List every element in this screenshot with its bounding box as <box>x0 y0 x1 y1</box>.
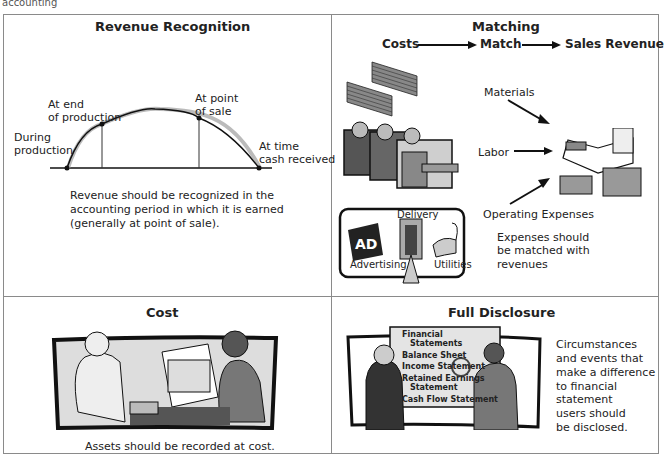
ad-sign-text: AD <box>355 236 377 252</box>
disclosure-description-line-5: statement <box>556 393 613 407</box>
board-item-retained-earnings: Retained Earnings <box>402 374 485 383</box>
vertical-divider <box>331 14 332 454</box>
disclosure-description-line-7: be disclosed. <box>556 421 628 435</box>
label-end-production-1: At end <box>48 98 84 112</box>
matching-description-line-2: be matched with <box>497 244 590 258</box>
label-cash-received-1: At time <box>259 140 299 154</box>
revenue-description-line-2: accounting period in which it is earned <box>70 203 284 217</box>
expense-advertising: Advertising <box>350 258 407 272</box>
panel-title: Full Disclosure <box>448 305 555 320</box>
label-during-production-2: production <box>14 144 73 158</box>
matching-description-line-3: revenues <box>497 258 548 272</box>
horizontal-divider <box>3 296 659 297</box>
expense-utilities: Utilities <box>434 258 472 272</box>
label-during-production-1: During <box>14 131 51 145</box>
disclosure-description-line-3: make a difference <box>556 366 655 380</box>
label-cash-received-2: cash received <box>259 153 335 167</box>
board-item-balance-sheet: Balance Sheet <box>402 351 466 360</box>
disclosure-description-line-1: Circumstances <box>556 338 637 352</box>
label-point-of-sale-2: of sale <box>195 105 231 119</box>
cash-register-icon <box>558 128 648 208</box>
panel-title: Cost <box>146 305 178 320</box>
page-caption: accounting <box>2 0 57 8</box>
disclosure-description-line-4: to financial <box>556 380 617 394</box>
board-item-income-statement: Income Statement <box>402 362 485 371</box>
expense-delivery: Delivery <box>397 208 439 222</box>
disclosure-description-line-2: and events that <box>556 352 643 366</box>
revenue-description-line-1: Revenue should be recognized in the <box>70 189 274 203</box>
board-item-statement: Statement <box>410 383 458 392</box>
matching-description-line-1: Expenses should <box>497 231 589 245</box>
cost-description: Assets should be recorded at cost. <box>85 440 275 454</box>
label-end-production-2: of production <box>48 111 121 125</box>
board-item-financial: Financial <box>402 330 443 339</box>
disclosure-description-line-6: users should <box>556 407 626 421</box>
board-item-cash-flow: Cash Flow Statement <box>402 395 498 404</box>
labor-workers-icon <box>342 120 462 195</box>
board-item-statements: Statements <box>410 339 462 348</box>
lumber-materials-icon <box>342 58 432 118</box>
panel-title: Matching <box>472 19 540 34</box>
label-point-of-sale-1: At point <box>195 92 238 106</box>
revenue-description-line-3: (generally at point of sale). <box>70 217 219 231</box>
cost-purchase-illustration <box>50 322 280 432</box>
panel-title: Revenue Recognition <box>95 19 250 34</box>
